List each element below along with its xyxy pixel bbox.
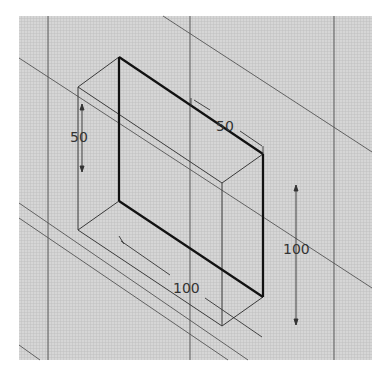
- dimension-label-top-50[interactable]: 50: [216, 118, 234, 134]
- dimension-label-left-50[interactable]: 50: [70, 129, 88, 145]
- dimension-label-bottom-100[interactable]: 100: [173, 280, 200, 296]
- cad-sketch-viewport[interactable]: 50 50 100 100: [0, 0, 390, 376]
- dimension-label-right-100[interactable]: 100: [283, 241, 310, 257]
